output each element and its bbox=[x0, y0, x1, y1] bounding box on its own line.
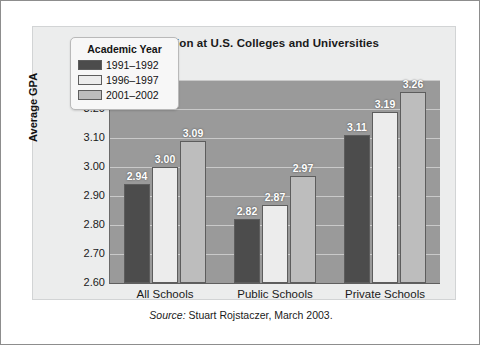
legend-entry-label: 1991–1992 bbox=[106, 59, 159, 71]
legend-entry: 1991–1992 bbox=[78, 58, 171, 72]
y-tick-label: 2.70 bbox=[65, 247, 105, 259]
bar-value-label: 3.00 bbox=[145, 153, 185, 165]
bar-group: 2.822.872.97 bbox=[220, 80, 330, 283]
bar-value-label: 3.19 bbox=[365, 98, 405, 110]
y-axis-title: Average GPA bbox=[27, 73, 39, 142]
legend-entry-label: 1996–1997 bbox=[106, 74, 159, 86]
bar[interactable]: 3.26 bbox=[400, 92, 426, 283]
y-tick-label: 3.10 bbox=[65, 131, 105, 143]
y-tick-label: 2.60 bbox=[65, 276, 105, 288]
legend-title: Academic Year bbox=[78, 43, 171, 55]
bar-value-label: 2.97 bbox=[283, 162, 323, 174]
source-label: Source: bbox=[149, 309, 185, 321]
bar-value-label: 3.09 bbox=[173, 127, 213, 139]
legend-entry: 2001–2002 bbox=[78, 88, 171, 102]
plot-area: 2.943.003.09All Schools2.822.872.97Publi… bbox=[109, 80, 440, 284]
bar[interactable]: 3.00 bbox=[152, 167, 178, 283]
bar-value-label: 3.11 bbox=[337, 121, 377, 133]
source-value: Stuart Rojstaczer, March 2003. bbox=[188, 309, 332, 321]
y-tick-label: 2.90 bbox=[65, 189, 105, 201]
legend-entry: 1996–1997 bbox=[78, 73, 171, 87]
figure-frame: Grade Inflation at U.S. Colleges and Uni… bbox=[0, 0, 480, 345]
source-note: Source: Stuart Rojstaczer, March 2003. bbox=[1, 309, 481, 321]
y-tick-label: 3.00 bbox=[65, 160, 105, 172]
legend-swatch bbox=[78, 60, 102, 70]
legend-swatch bbox=[78, 75, 102, 85]
y-tick-label: 2.80 bbox=[65, 218, 105, 230]
bar[interactable]: 2.97 bbox=[290, 176, 316, 283]
bar-value-label: 2.82 bbox=[227, 205, 267, 217]
x-tick-label: Private Schools bbox=[320, 288, 450, 300]
bar-value-label: 2.87 bbox=[255, 191, 295, 203]
legend-entry-label: 2001–2002 bbox=[106, 89, 159, 101]
legend-swatch bbox=[78, 90, 102, 100]
bar-value-label: 3.26 bbox=[393, 78, 433, 90]
bar[interactable]: 2.94 bbox=[124, 184, 150, 283]
bar-group: 3.113.193.26 bbox=[330, 80, 440, 283]
bar[interactable]: 3.19 bbox=[372, 112, 398, 283]
bar[interactable]: 2.87 bbox=[262, 205, 288, 283]
bar[interactable]: 3.09 bbox=[180, 141, 206, 283]
bar-group: 2.943.003.09 bbox=[110, 80, 220, 283]
bar-value-label: 2.94 bbox=[117, 170, 157, 182]
chart-legend: Academic Year 1991–19921996–19972001–200… bbox=[70, 37, 179, 110]
bar[interactable]: 2.82 bbox=[234, 219, 260, 283]
y-axis-tick-labels: 3.303.203.103.002.902.802.702.60 bbox=[61, 80, 105, 283]
bar[interactable]: 3.11 bbox=[344, 135, 370, 283]
legend-entries: 1991–19921996–19972001–2002 bbox=[78, 58, 171, 102]
